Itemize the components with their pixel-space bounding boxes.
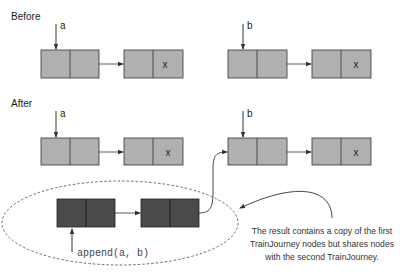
after-list-a-node-1 — [41, 138, 99, 165]
annotation-line-1: The result contains a copy of the first — [252, 226, 393, 236]
pointer-label-b: b — [247, 20, 253, 31]
after-title: After — [11, 98, 33, 109]
copied-node-1 — [57, 199, 115, 227]
before-list-a-node-1 — [41, 50, 99, 78]
pointer-label-a: a — [60, 108, 66, 119]
tail-marker: x — [354, 147, 359, 158]
annotation-line-3: with the second TrainJourney. — [264, 252, 379, 262]
append-pointer: append(a, b) — [72, 229, 149, 259]
annotation-arrow — [240, 191, 332, 218]
pointer-label-a: a — [60, 20, 66, 31]
before-title: Before — [11, 11, 41, 22]
tail-marker: x — [166, 147, 171, 158]
tail-marker: x — [163, 59, 168, 70]
before-list-b-node-1 — [228, 50, 287, 78]
shared-link-arrow — [199, 152, 227, 213]
before-pointer-a: a — [56, 20, 66, 49]
tail-marker: x — [354, 59, 359, 70]
after-list-a-node-2: x — [124, 138, 183, 165]
before-list-a-node-2: x — [124, 50, 183, 78]
after-pointer-b: b — [243, 108, 253, 137]
annotation-line-2: TrainJourney nodes but shares nodes — [250, 239, 394, 249]
before-pointer-b: b — [243, 20, 253, 49]
append-call-label: append(a, b) — [77, 248, 149, 259]
pointer-label-b: b — [247, 108, 253, 119]
annotation: The result contains a copy of the first … — [250, 226, 394, 262]
after-pointer-a: a — [56, 108, 66, 137]
copied-node-2 — [141, 199, 199, 227]
after-list-b-node-1 — [228, 138, 287, 165]
after-list-b-node-2: x — [312, 138, 371, 165]
diagram-canvas: Before a x b x After a — [0, 0, 414, 280]
before-list-b-node-2: x — [312, 50, 371, 78]
